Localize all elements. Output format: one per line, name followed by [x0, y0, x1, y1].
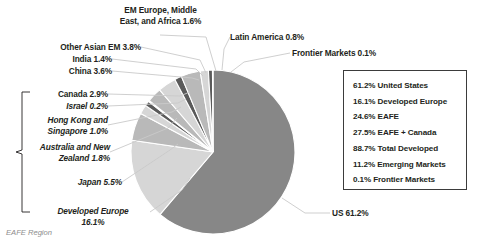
legend-row: 0.1% Frontier Markets — [353, 172, 466, 188]
slice-label-latin-america: Latin America 0.8% — [230, 32, 304, 43]
slice-label-japan: Japan 5.5% — [0, 177, 122, 188]
legend-row: 24.6% EAFE — [353, 109, 466, 125]
slice-label-hk-sg-line2: Singapore 1.0% — [0, 126, 108, 137]
slice-label-canada: Canada 2.9% — [0, 89, 108, 100]
legend-row: 27.5% EAFE + Canada — [353, 125, 466, 141]
slice-label-emea-line1: EM Europe, Middle — [98, 5, 223, 16]
slice-label-israel: Israel 0.2% — [0, 101, 108, 112]
slice-label-china: China 3.6% — [0, 66, 112, 77]
leader-line-frontier-markets — [231, 53, 290, 72]
leader-line-us — [282, 198, 330, 213]
pie-slice — [212, 70, 213, 152]
slice-label-emea-line2: East, and Africa 1.6% — [98, 16, 223, 27]
slice-label-developed-europe-line1: Developed Europe — [36, 206, 150, 217]
slice-label-developed-europe-line2: 16.1% — [36, 217, 150, 228]
pie-slices-group — [131, 70, 295, 234]
slice-label-anz: Australia and New Zealand 1.8% — [0, 142, 110, 163]
slice-label-emea: EM Europe, Middle East, and Africa 1.6% — [98, 5, 223, 26]
slice-label-developed-europe: Developed Europe 16.1% — [36, 206, 150, 227]
legend-row: 61.2% United States — [353, 78, 466, 94]
slice-label-hk-sg: Hong Kong and Singapore 1.0% — [0, 115, 108, 136]
slice-label-anz-line2: Zealand 1.8% — [0, 153, 110, 164]
slice-label-anz-line1: Australia and New — [0, 142, 110, 153]
slice-label-frontier-markets: Frontier Markets 0.1% — [292, 48, 376, 59]
legend-box: 61.2% United States16.1% Developed Europ… — [343, 70, 467, 190]
eafe-region-caption: EAFE Region — [6, 228, 52, 237]
slice-label-india: India 1.4% — [0, 54, 112, 65]
legend-row: 11.2% Emerging Markets — [353, 157, 466, 173]
legend-row: 88.7% Total Developed — [353, 141, 466, 157]
pie-chart-figure: EM Europe, Middle East, and Africa 1.6% … — [0, 0, 481, 252]
slice-label-other-asian-em: Other Asian EM 3.8% — [0, 42, 141, 53]
leader-line-latin-america — [222, 37, 230, 70]
slice-label-hk-sg-line1: Hong Kong and — [0, 115, 108, 126]
legend-row: 16.1% Developed Europe — [353, 94, 466, 110]
slice-label-us: US 61.2% — [332, 208, 369, 219]
